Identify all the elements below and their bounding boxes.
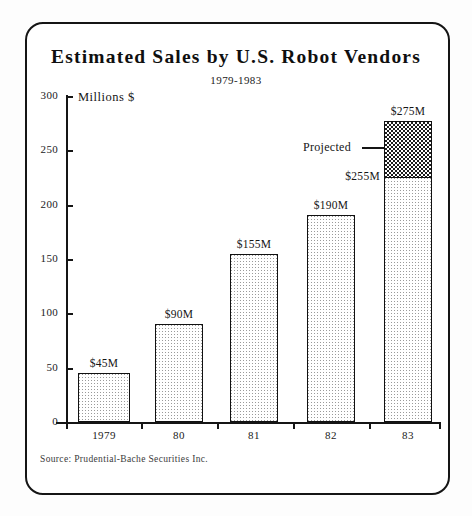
y-tick-mark bbox=[66, 205, 73, 207]
x-axis-line bbox=[56, 422, 440, 424]
x-tick-label-83: 83 bbox=[384, 429, 432, 441]
y-tick-label: 0 bbox=[14, 415, 58, 427]
x-tick-mark bbox=[439, 422, 441, 429]
y-tick-mark bbox=[66, 313, 73, 315]
x-tick-mark bbox=[293, 422, 295, 429]
y-tick-label: 100 bbox=[14, 306, 58, 318]
y-axis-unit-label: Millions $ bbox=[78, 90, 135, 105]
projected-annotation-label: Projected bbox=[303, 140, 351, 155]
y-tick-label: 50 bbox=[14, 361, 58, 373]
y-tick-label: 300 bbox=[14, 89, 58, 101]
y-tick-mark bbox=[66, 368, 73, 370]
x-tick-label-82: 82 bbox=[307, 429, 355, 441]
projected-base-label: $255M bbox=[330, 170, 380, 182]
bar-label-1979: $45M bbox=[78, 357, 130, 369]
bar-82[interactable] bbox=[307, 215, 355, 422]
bar-label-81: $155M bbox=[226, 238, 282, 250]
bar-81[interactable] bbox=[230, 254, 278, 422]
x-tick-mark bbox=[66, 422, 68, 429]
projected-leader-line bbox=[362, 147, 384, 149]
x-tick-label-80: 80 bbox=[155, 429, 203, 441]
bar-83-actual[interactable] bbox=[384, 177, 432, 422]
y-tick-label: 200 bbox=[14, 198, 58, 210]
bar-80[interactable] bbox=[155, 324, 203, 422]
x-tick-mark bbox=[369, 422, 371, 429]
y-tick-label: 250 bbox=[14, 143, 58, 155]
y-tick-mark bbox=[66, 96, 73, 98]
bar-label-83: $275M bbox=[380, 105, 436, 117]
x-tick-mark bbox=[141, 422, 143, 429]
chart-page: Estimated Sales by U.S. Robot Vendors 19… bbox=[0, 0, 472, 516]
x-tick-label-81: 81 bbox=[230, 429, 278, 441]
x-tick-label-1979: 1979 bbox=[78, 429, 130, 441]
source-note: Source: Prudential-Bache Securities Inc. bbox=[40, 454, 208, 464]
bar-label-82: $190M bbox=[303, 199, 359, 211]
bar-83-projected[interactable] bbox=[384, 121, 432, 178]
bar-1979[interactable] bbox=[78, 373, 130, 422]
x-tick-mark bbox=[217, 422, 219, 429]
plot-area: Millions $ 300 250 200 150 100 50 0 $45M… bbox=[0, 0, 472, 516]
y-tick-mark bbox=[66, 259, 73, 261]
y-tick-label: 150 bbox=[14, 252, 58, 264]
bar-label-80: $90M bbox=[153, 308, 205, 320]
y-tick-mark bbox=[66, 150, 73, 152]
